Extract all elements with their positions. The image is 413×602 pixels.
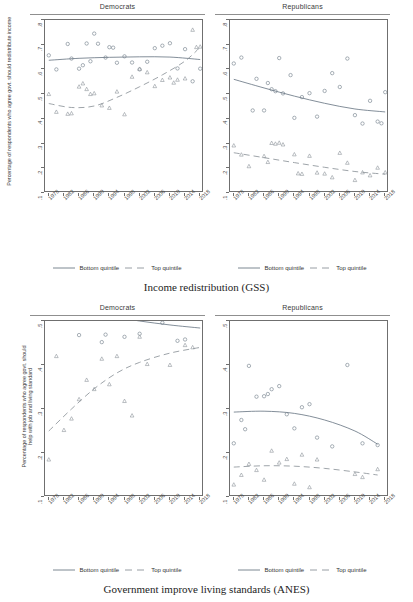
y-axis-tick-label: .6 — [37, 68, 43, 80]
data-point — [168, 42, 171, 45]
legend-democrats-anes: Bottom quintile Top quintile — [30, 564, 205, 576]
y-axis-tick-mark — [226, 496, 229, 497]
data-point — [308, 402, 311, 405]
data-point — [262, 395, 265, 398]
y-axis-tick-label: .1 — [222, 496, 228, 508]
legend-label: Bottom quintile — [79, 567, 119, 573]
x-axis-tick-mark — [184, 193, 185, 196]
y-axis-tick-label: .5 — [222, 93, 228, 105]
data-point — [183, 343, 187, 346]
y-axis-tick-label: .4 — [222, 117, 228, 129]
data-point — [331, 71, 334, 74]
y-axis-tick-label: .2 — [222, 452, 228, 464]
panel-title: Republicans — [215, 3, 390, 10]
legend-item-bottom-quintile[interactable]: Bottom quintile — [53, 567, 119, 573]
legend-label: Top quintile — [151, 265, 181, 271]
x-axis-tick-mark — [293, 497, 294, 500]
data-point — [85, 42, 88, 45]
data-point — [111, 46, 114, 49]
data-point — [153, 84, 157, 87]
data-point — [108, 106, 112, 109]
x-axis-tick-mark — [63, 497, 64, 500]
legend-item-bottom-quintile[interactable]: Bottom quintile — [238, 567, 304, 573]
legend-republicans-anes: Bottom quintile Top quintile — [215, 564, 390, 576]
legend-item-top-quintile[interactable]: Top quintile — [310, 567, 366, 573]
x-axis-tick-mark — [169, 497, 170, 500]
data-point — [270, 449, 274, 452]
data-point — [123, 399, 127, 402]
x-axis-tick-mark — [199, 497, 200, 500]
panel-title-rule — [30, 315, 205, 316]
y-axis-tick-mark — [226, 68, 229, 69]
y-axis-tick-mark — [41, 192, 44, 193]
legend-item-top-quintile[interactable]: Top quintile — [310, 265, 366, 271]
data-point — [92, 91, 96, 94]
y-axis-tick-mark — [41, 143, 44, 144]
y-axis-tick-mark — [41, 408, 44, 409]
data-point — [247, 462, 251, 465]
legend-item-top-quintile[interactable]: Top quintile — [125, 265, 181, 271]
data-point — [243, 428, 246, 431]
y-axis-tick-label: .4 — [37, 117, 43, 129]
plot-svg — [45, 20, 204, 193]
data-point — [232, 62, 235, 65]
data-point — [293, 116, 296, 119]
legend-label: Bottom quintile — [264, 265, 304, 271]
data-point — [161, 44, 164, 47]
plot-svg — [45, 321, 204, 497]
data-point — [47, 54, 50, 57]
figure-government-living-standards: Democrats .5.4.3.2.119781982198619901994… — [0, 300, 413, 602]
y-axis-tick-label: .2 — [37, 167, 43, 179]
data-point — [123, 112, 127, 115]
data-point — [346, 161, 350, 164]
data-point — [384, 90, 387, 93]
x-axis-tick-mark — [63, 193, 64, 196]
data-point — [240, 473, 244, 476]
legend-item-top-quintile[interactable]: Top quintile — [125, 567, 181, 573]
data-point — [308, 154, 312, 157]
y-axis-tick-label: .5 — [222, 320, 228, 332]
data-point — [262, 109, 265, 112]
data-point — [353, 113, 356, 116]
fit-line-bottom-quintile — [49, 57, 200, 61]
data-point — [331, 445, 334, 448]
legend-label: Bottom quintile — [79, 265, 119, 271]
y-axis-tick-label: .7 — [37, 43, 43, 55]
data-point — [123, 55, 126, 58]
legend-swatch-solid-icon — [53, 265, 75, 271]
data-point — [278, 384, 281, 387]
figure-caption-anes: Government improve living standards (ANE… — [0, 583, 413, 595]
fit-line-top-quintile — [49, 347, 200, 431]
x-axis-tick-mark — [233, 497, 234, 500]
data-point — [255, 468, 259, 471]
fit-line-bottom-quintile — [49, 321, 200, 328]
data-point — [191, 80, 194, 83]
x-axis-tick-mark — [78, 193, 79, 196]
data-point — [199, 67, 202, 70]
x-axis-tick-mark — [263, 193, 264, 196]
data-point — [85, 378, 89, 381]
y-axis-tick-mark — [41, 364, 44, 365]
data-point — [293, 482, 297, 485]
y-axis-tick-label: .1 — [37, 496, 43, 508]
panel-republicans-gss: Republicans .8.7.6.5.4.3.2.1197819821986… — [215, 0, 390, 260]
legend-item-bottom-quintile[interactable]: Bottom quintile — [53, 265, 119, 271]
panel-title-rule — [215, 315, 390, 316]
plot-area-republicans-anes — [229, 320, 388, 496]
panel-title: Democrats — [30, 304, 205, 311]
data-point — [195, 45, 199, 48]
data-point — [330, 175, 334, 178]
data-point — [176, 339, 179, 342]
x-axis-tick-mark — [48, 497, 49, 500]
y-axis-title-top: Percentage of respondents who agree govt… — [6, 6, 12, 196]
x-axis-tick-mark — [93, 497, 94, 500]
legend-swatch-dashed-icon — [125, 567, 147, 573]
x-axis-tick-mark — [248, 497, 249, 500]
data-point — [240, 153, 244, 156]
y-axis-tick-mark — [226, 408, 229, 409]
legend-republicans-gss: Bottom quintile Top quintile — [215, 262, 390, 274]
y-axis-tick-label: .5 — [37, 93, 43, 105]
legend-item-bottom-quintile[interactable]: Bottom quintile — [238, 265, 304, 271]
y-axis-tick-mark — [41, 118, 44, 119]
x-axis-tick-mark — [384, 193, 385, 196]
